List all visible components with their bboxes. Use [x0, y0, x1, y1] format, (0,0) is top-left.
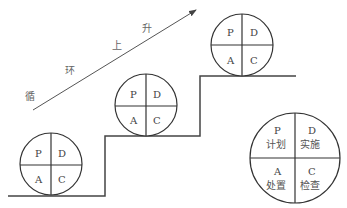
pdca-circle-bottom: P D A C — [20, 133, 82, 195]
quadrant-d: D — [58, 148, 66, 159]
quadrant-c: C — [58, 174, 66, 185]
arrow-label-2: 环 — [65, 65, 75, 76]
arrow-label-1: 循 — [25, 90, 35, 102]
quadrant-c: C — [250, 55, 258, 66]
arrow-label-4: 升 — [142, 23, 152, 34]
quadrant-a: A — [34, 174, 43, 185]
pdca-circle-middle: P D A C — [115, 74, 177, 136]
legend-p-letter: P — [274, 125, 281, 136]
legend-c-letter: C — [308, 166, 316, 177]
quadrant-a: A — [129, 115, 138, 126]
quadrant-p: P — [35, 148, 42, 159]
quadrant-c: C — [153, 115, 161, 126]
quadrant-d: D — [153, 89, 161, 100]
legend-a-name: 处置 — [266, 180, 286, 191]
pdca-legend-circle: P 计划 D 实施 A 处置 C 检查 — [250, 113, 340, 203]
legend-p-name: 计划 — [266, 138, 286, 150]
arrow-label-3: 上 — [112, 40, 122, 51]
legend-c-name: 检查 — [300, 179, 320, 191]
legend-d-letter: D — [308, 125, 316, 136]
quadrant-p: P — [227, 27, 234, 38]
quadrant-p: P — [130, 89, 137, 100]
quadrant-d: D — [250, 27, 258, 38]
quadrant-a: A — [226, 55, 235, 66]
legend-a-letter: A — [273, 166, 282, 177]
legend-d-name: 实施 — [300, 138, 320, 150]
pdca-stair-diagram: 循 环 上 升 P D A C P D A C P D A C P — [0, 0, 347, 208]
pdca-circle-top: P D A C — [211, 14, 273, 76]
